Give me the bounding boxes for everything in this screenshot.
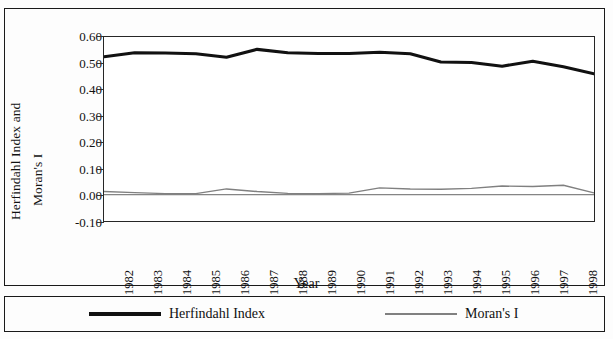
x-axis-tick-labels: 1982198319841985198619871988198919901991… <box>103 224 595 276</box>
legend-item-morans-i: Moran's I <box>385 306 518 322</box>
legend-label-1: Moran's I <box>465 306 518 322</box>
y-axis-title-line-1: Herfindahl Index and <box>8 103 24 220</box>
y-axis-tick-label: 0.50 <box>56 56 102 69</box>
legend-label-0: Herfindahl Index <box>169 306 265 322</box>
legend-swatch-line-icon <box>385 313 457 315</box>
legend-swatch-line-icon <box>89 312 161 316</box>
series-line-morans-i <box>104 185 594 193</box>
legend-item-herfindahl-index: Herfindahl Index <box>89 306 265 322</box>
y-axis-title-line-2: Moran's I <box>30 154 46 206</box>
y-axis-tick-label: 0.20 <box>56 136 102 149</box>
y-axis-tick-label: -0.10 <box>56 216 102 229</box>
plot-area <box>103 36 595 222</box>
y-axis-tick-label: 0.00 <box>56 189 102 202</box>
y-axis-tick-label: 0.60 <box>56 30 102 43</box>
figure-container: Herfindahl Index and Moran's I 0.600.500… <box>0 0 613 339</box>
y-axis-tick-mark <box>97 222 104 223</box>
chart-legend: Herfindahl Index Moran's I <box>4 296 605 332</box>
y-axis-tick-label: 0.40 <box>56 83 102 96</box>
y-axis-tick-label: 0.10 <box>56 162 102 175</box>
series-canvas <box>104 37 594 221</box>
series-line-herfindahl-index <box>104 49 594 73</box>
x-axis-title: Year <box>0 276 613 292</box>
y-axis-tick-label: 0.30 <box>56 109 102 122</box>
